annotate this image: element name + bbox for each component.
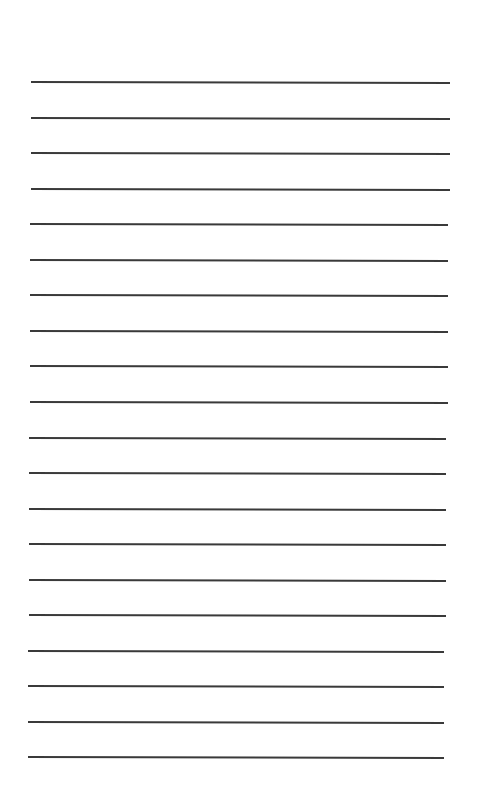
ruled-line xyxy=(30,365,448,368)
ruled-line xyxy=(30,259,448,262)
ruled-line xyxy=(30,401,448,404)
ruled-line xyxy=(30,294,448,297)
ruled-line xyxy=(28,650,444,653)
ruled-line xyxy=(28,685,444,688)
ruled-line xyxy=(30,330,448,333)
ruled-line xyxy=(29,579,446,582)
ruled-line xyxy=(29,437,446,440)
ruled-line xyxy=(31,117,450,120)
ruled-line xyxy=(29,543,446,546)
ruled-line xyxy=(29,614,446,617)
ruled-line xyxy=(28,721,444,724)
lined-paper-page xyxy=(0,0,479,810)
ruled-line xyxy=(30,223,448,226)
ruled-line xyxy=(31,188,450,191)
ruled-line xyxy=(28,756,444,759)
ruled-line xyxy=(31,152,450,155)
ruled-line xyxy=(31,81,450,84)
ruled-line xyxy=(29,472,446,475)
ruled-line xyxy=(29,508,446,511)
